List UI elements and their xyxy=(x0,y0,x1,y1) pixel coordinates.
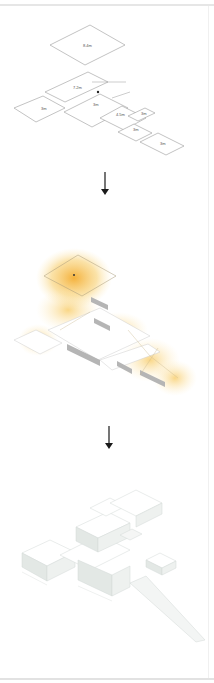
ramp xyxy=(130,576,205,642)
stage-massing xyxy=(0,0,214,683)
diagram-frame: 8.4m 7.2m 3m 3m 4.5m 3m 3m 3m xyxy=(0,0,214,683)
